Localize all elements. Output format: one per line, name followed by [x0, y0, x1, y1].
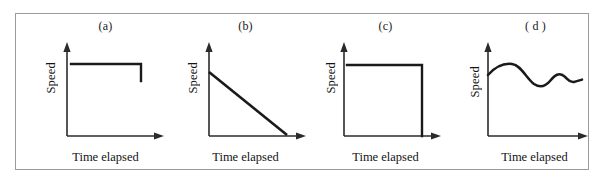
panel-a-label: (a)	[34, 19, 177, 34]
panel-b-label: (b)	[174, 19, 317, 34]
panel-b-x-axis-label: Time elapsed	[174, 150, 317, 165]
panel-d-label: ( d )	[456, 19, 599, 34]
panel-a-x-axis-arrow-icon	[154, 132, 164, 139]
panel-a: (a) Speed Time elapsed	[34, 14, 177, 169]
panel-c: (c) Speed Time elapsed	[314, 14, 457, 169]
panel-a-y-axis-arrow-icon	[63, 42, 70, 52]
panel-c-plot	[314, 36, 457, 146]
figure-frame: (a) Speed Time elapsed (b) Speed Time el…	[15, 13, 589, 170]
panel-c-data-curve	[347, 65, 422, 136]
panel-a-plot	[34, 36, 177, 146]
panel-c-y-axis-arrow-icon	[340, 42, 347, 52]
panel-b-y-axis-arrow-icon	[205, 42, 212, 52]
panel-a-data-curve	[71, 64, 141, 81]
panel-d-data-curve	[488, 64, 582, 87]
panel-d-x-axis-label: Time elapsed	[456, 150, 599, 165]
panel-b: (b) Speed Time elapsed	[174, 14, 317, 169]
panel-a-x-axis-label: Time elapsed	[34, 150, 177, 165]
panel-b-plot	[174, 36, 317, 146]
panel-b-data-curve	[209, 72, 287, 135]
panel-c-label: (c)	[314, 19, 457, 34]
panel-c-x-axis-arrow-icon	[431, 132, 441, 139]
panel-d-plot	[456, 36, 599, 146]
panel-d-x-axis-arrow-icon	[578, 132, 588, 139]
panel-d: ( d ) Speed Time elapsed	[456, 14, 599, 169]
panel-c-x-axis-label: Time elapsed	[314, 150, 457, 165]
panel-b-x-axis-arrow-icon	[296, 132, 306, 139]
panel-d-y-axis-arrow-icon	[484, 42, 491, 52]
